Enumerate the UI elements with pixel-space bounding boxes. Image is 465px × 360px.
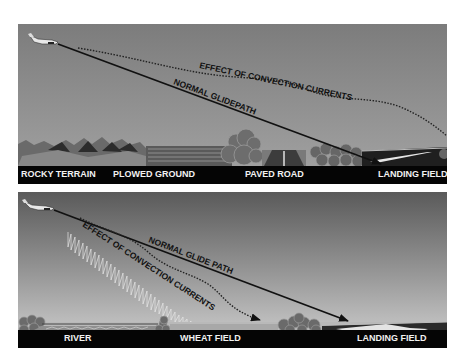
bottom-scene: NORMAL GLIDE PATH EFFECT OF CONVECTION C…: [18, 192, 447, 348]
terrain-label-bar: RIVER WHEAT FIELD LANDING FIELD: [18, 330, 447, 348]
label-river: RIVER: [64, 333, 92, 343]
panel-convection-over-water-and-fields: NORMAL GLIDE PATH EFFECT OF CONVECTION C…: [18, 192, 447, 348]
label-landing-field: LANDING FIELD: [378, 169, 447, 179]
label-landing-field: LANDING FIELD: [357, 333, 427, 343]
label-wheat-field: WHEAT FIELD: [180, 333, 241, 343]
top-scene: EFFECT OF CONVECTION CURRENTS NORMAL GLI…: [18, 24, 447, 184]
label-plowed-ground: PLOWED GROUND: [113, 169, 195, 179]
panel-convection-over-varied-terrain: EFFECT OF CONVECTION CURRENTS NORMAL GLI…: [18, 24, 447, 184]
label-paved-road: PAVED ROAD: [245, 169, 304, 179]
terrain-label-bar: ROCKY TERRAIN PLOWED GROUND PAVED ROAD L…: [18, 166, 447, 184]
label-rocky-terrain: ROCKY TERRAIN: [21, 169, 96, 179]
